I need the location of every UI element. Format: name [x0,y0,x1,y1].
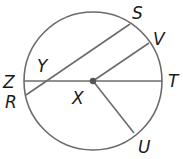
radius-xu [93,81,134,133]
radius-xv [93,43,149,81]
label-z: Z [2,72,15,92]
label-v: V [153,29,166,49]
center-dot-x [90,78,96,84]
circle-diagram: S V T U Z R Y X [0,0,183,159]
label-y: Y [37,56,49,76]
label-u: U [138,137,151,157]
label-t: T [168,71,180,91]
label-s: S [132,3,143,23]
label-r: R [5,92,17,112]
label-x: X [71,88,84,108]
